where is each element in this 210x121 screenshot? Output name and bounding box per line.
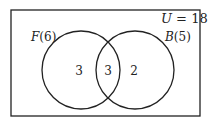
region-only-f: 3 bbox=[75, 64, 83, 78]
universe-label: U = 18 bbox=[161, 11, 208, 26]
set-b-label: B(5) bbox=[164, 30, 191, 44]
region-f-and-b: 3 bbox=[104, 64, 112, 78]
venn-diagram: U = 18 F(6) B(5) 3 3 2 bbox=[0, 0, 210, 121]
set-f-label: F(6) bbox=[30, 30, 56, 44]
region-only-b: 2 bbox=[130, 64, 138, 78]
